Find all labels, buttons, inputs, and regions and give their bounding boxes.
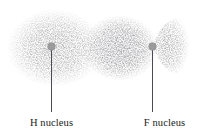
- fluorine-leader-line: [152, 49, 153, 112]
- fluorine-nucleus-label: F nucleus: [126, 117, 199, 128]
- hydrogen-nucleus-label: H nucleus: [13, 117, 90, 128]
- fluorine-nucleus-dot: [149, 43, 156, 50]
- electron-density-figure: H nucleus F nucleus: [0, 0, 199, 136]
- electron-density-cloud: [0, 0, 199, 136]
- hydrogen-nucleus-dot: [48, 43, 55, 50]
- lone-pair-wash: [153, 18, 192, 74]
- fluorine-lobe-wash: [82, 15, 158, 81]
- hydrogen-leader-line: [51, 49, 52, 112]
